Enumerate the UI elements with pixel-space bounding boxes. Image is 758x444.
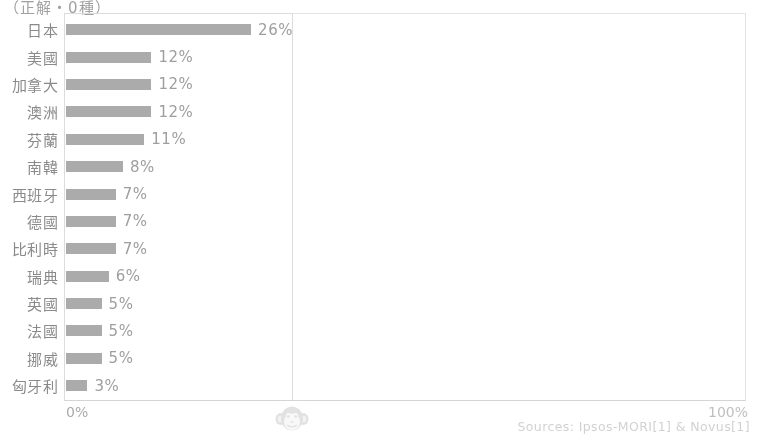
bar-row: 德國7% [0,208,758,235]
bar-and-value: 5% [66,322,133,340]
bar-category-label: 南韓 [0,156,58,177]
bar-and-value: 3% [66,377,119,395]
bar-value-label: 11% [151,130,186,148]
bar [66,298,102,309]
monkey-face-icon [275,405,309,433]
bar-value-label: 5% [109,322,134,340]
bar-and-value: 12% [66,75,193,93]
bar-and-value: 5% [66,349,133,367]
chart-page: （正解・0種） 日本26%美國12%加拿大12%澳洲12%芬蘭11%南韓8%西班… [0,0,758,444]
bar-category-label: 比利時 [0,238,58,259]
bar-row: 英國5% [0,290,758,317]
bar-value-label: 7% [123,212,148,230]
bar-and-value: 7% [66,212,148,230]
x-axis-tick-max: 100% [708,404,748,420]
bar-category-label: 芬蘭 [0,129,58,150]
bar-row: 法國5% [0,317,758,344]
bar-value-label: 12% [158,48,193,66]
bar [66,24,251,35]
bar-category-label: 匈牙利 [0,375,58,396]
bar-and-value: 7% [66,240,148,258]
bar-value-label: 7% [123,240,148,258]
bar-row: 美國12% [0,43,758,70]
bar [66,79,151,90]
bar-category-label: 美國 [0,47,58,68]
bar [66,106,151,117]
bar-and-value: 6% [66,267,140,285]
bar-value-label: 7% [123,185,148,203]
bar-row: 匈牙利3% [0,372,758,399]
bar [66,161,123,172]
bar-row: 瑞典6% [0,263,758,290]
bar [66,271,109,282]
bar-value-label: 12% [158,75,193,93]
bar [66,189,116,200]
x-axis-tick-min: 0% [66,404,88,420]
bar [66,134,144,145]
bar-value-label: 6% [116,267,141,285]
bar-row: 挪威5% [0,345,758,372]
bar-and-value: 5% [66,295,133,313]
bar [66,380,87,391]
bar-row: 西班牙7% [0,180,758,207]
bar [66,216,116,227]
bar-and-value: 12% [66,103,193,121]
bar [66,52,151,63]
bar-category-label: 法國 [0,320,58,341]
bar-row: 比利時7% [0,235,758,262]
bar [66,325,102,336]
source-credit: Sources: Ipsos-MORI[1] & Novus[1] [517,419,750,434]
bar-category-label: 加拿大 [0,74,58,95]
bar-and-value: 7% [66,185,148,203]
bar-category-label: 西班牙 [0,184,58,205]
bar-row: 南韓8% [0,153,758,180]
bar-value-label: 5% [109,349,134,367]
bar-rows-container: 日本26%美國12%加拿大12%澳洲12%芬蘭11%南韓8%西班牙7%德國7%比… [0,16,758,399]
bar-and-value: 8% [66,158,155,176]
bar-category-label: 英國 [0,293,58,314]
bar-category-label: 澳洲 [0,101,58,122]
bar [66,353,102,364]
bar-and-value: 11% [66,130,186,148]
x-axis-line [64,400,746,401]
bar [66,243,116,254]
bar-value-label: 5% [109,295,134,313]
bar-row: 加拿大12% [0,71,758,98]
bar-and-value: 12% [66,48,193,66]
bar-value-label: 26% [258,21,293,39]
bar-category-label: 瑞典 [0,266,58,287]
bar-row: 澳洲12% [0,98,758,125]
bar-value-label: 3% [94,377,119,395]
bar-value-label: 8% [130,158,155,176]
bar-row: 日本26% [0,16,758,43]
bar-value-label: 12% [158,103,193,121]
bar-category-label: 挪威 [0,348,58,369]
bar-and-value: 26% [66,21,293,39]
bar-row: 芬蘭11% [0,126,758,153]
bar-category-label: 德國 [0,211,58,232]
bar-category-label: 日本 [0,19,58,40]
